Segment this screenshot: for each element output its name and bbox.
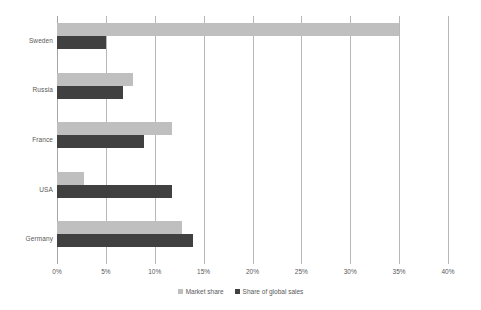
bar-group xyxy=(57,16,448,66)
x-axis-tick-label: 40% xyxy=(441,268,454,275)
bar-group xyxy=(57,66,448,116)
legend-label: Market share xyxy=(186,288,224,295)
bar xyxy=(57,221,182,234)
x-axis-tick-label: 25% xyxy=(295,268,308,275)
bar xyxy=(57,23,399,36)
x-axis-tick-label: 20% xyxy=(246,268,259,275)
bar xyxy=(57,86,123,99)
bar-group xyxy=(57,165,448,215)
legend-label: Share of global sales xyxy=(243,288,304,295)
bar xyxy=(57,122,172,135)
bar-chart: SwedenRussiaFranceUSAGermany 0%5%10%15%2… xyxy=(0,0,481,310)
bar xyxy=(57,172,84,185)
x-axis-tick-label: 35% xyxy=(393,268,406,275)
y-axis-tick-label: USA xyxy=(0,186,53,193)
x-axis-tick-label: 10% xyxy=(148,268,161,275)
x-axis-tick-label: 30% xyxy=(344,268,357,275)
x-axis-tick-label: 5% xyxy=(101,268,110,275)
bar xyxy=(57,135,144,148)
y-axis: SwedenRussiaFranceUSAGermany xyxy=(0,16,53,264)
bar xyxy=(57,73,133,86)
bar xyxy=(57,185,172,198)
gridline-40% xyxy=(448,16,449,264)
y-axis-tick-label: France xyxy=(0,136,53,143)
bar xyxy=(57,234,193,247)
x-axis-tick-label: 0% xyxy=(52,268,61,275)
bar-group xyxy=(57,214,448,264)
legend-swatch-share-of-global-sales xyxy=(235,289,240,294)
legend-item[interactable]: Share of global sales xyxy=(235,288,304,295)
chart-legend: Market shareShare of global sales xyxy=(0,288,481,295)
legend-swatch-market-share xyxy=(178,289,183,294)
bar xyxy=(57,36,106,49)
x-axis-tick-label: 15% xyxy=(197,268,210,275)
y-axis-tick-label: Sweden xyxy=(0,37,53,44)
y-axis-tick-label: Germany xyxy=(0,235,53,242)
x-axis: 0%5%10%15%20%25%30%35%40% xyxy=(57,268,448,282)
plot-area xyxy=(57,16,448,264)
legend-item[interactable]: Market share xyxy=(178,288,224,295)
bar-group xyxy=(57,115,448,165)
y-axis-tick-label: Russia xyxy=(0,86,53,93)
